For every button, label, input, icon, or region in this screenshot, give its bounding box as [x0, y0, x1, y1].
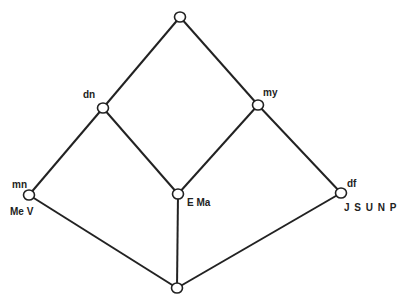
label-e-ma: E Ma — [187, 198, 210, 208]
edge-top-dn — [103, 17, 180, 108]
lattice-diagram — [0, 0, 399, 305]
edge-top-my — [180, 17, 258, 105]
label-mn: mn — [12, 180, 27, 190]
node-my — [253, 100, 264, 110]
edge-my-df — [258, 105, 341, 193]
edge-my-ema — [178, 105, 258, 194]
label-jsunp: J S U N P — [344, 203, 397, 213]
label-my: my — [263, 88, 277, 98]
edge-dn-mn — [29, 108, 103, 195]
label-me-v: Me V — [10, 207, 33, 217]
node-df — [336, 188, 347, 198]
node-dn — [98, 103, 109, 113]
node-ema — [173, 189, 184, 199]
label-dn: dn — [83, 90, 95, 100]
node-top — [175, 12, 186, 22]
edge-ema-bottom — [177, 194, 178, 288]
node-mn — [24, 190, 35, 200]
edge-mn-bottom — [29, 195, 177, 288]
label-df: df — [347, 179, 356, 189]
node-bottom — [172, 283, 183, 293]
edge-dn-ema — [103, 108, 178, 194]
